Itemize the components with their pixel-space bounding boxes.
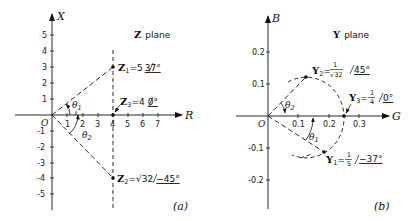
r-tick-label: 7 (155, 120, 160, 129)
y-tick-label: -5 (37, 190, 45, 199)
z-plane-diagram: X R O 1 2 3 4 5 -1 -2 -3 -4 -5 (15, 10, 193, 213)
y-tick-label: 3 (42, 63, 47, 72)
r-tick-label: 6 (140, 120, 145, 129)
theta2-arc (69, 115, 78, 134)
caption-b: (b) (374, 200, 390, 213)
svg-text:5: 5 (347, 160, 351, 168)
y-tick-label: 2 (42, 79, 47, 88)
b-tick-label: 0.1 (252, 80, 265, 89)
theta2-label: θ2 (82, 130, 92, 142)
b-tick-label: -0.1 (248, 144, 264, 153)
svg-text:Y1=: Y1= (325, 154, 345, 167)
y-tick-label: 1 (42, 95, 47, 104)
r-tick-label: 3 (95, 120, 100, 129)
svg-text:1: 1 (370, 89, 374, 97)
svg-text:1: 1 (333, 61, 337, 69)
b-ticks: 0.1 0.2 -0.1 -0.2 (248, 48, 270, 185)
y2-point (304, 75, 308, 79)
svg-text:Y2=: Y2= (311, 65, 331, 78)
svg-text:1: 1 (347, 151, 351, 159)
y-plane-title: Yplane (332, 29, 370, 40)
g-tick-label: 0.2 (323, 120, 336, 129)
b-axis-label: B (271, 12, 280, 25)
y-tick-label: -2 (37, 143, 45, 152)
r-tick-label: 2 (80, 120, 85, 129)
y-ticks-negative: -1 -2 -3 -4 -5 (37, 127, 54, 199)
svg-text:0°: 0° (383, 93, 393, 103)
circle-locus (288, 77, 344, 158)
y-plane-diagram: B G O 0.1 0.2 -0.1 -0.2 0.1 0.2 0.3 (236, 12, 401, 213)
g-tick-label: 0.3 (353, 120, 366, 129)
svg-text:√32: √32 (330, 71, 342, 79)
z3-point (111, 113, 115, 117)
y-tick-label: 5 (42, 31, 47, 40)
y-tick-label: -4 (37, 174, 45, 183)
caption-a: (a) (173, 200, 188, 213)
svg-text:4: 4 (370, 98, 374, 106)
theta2-label: θ2 (285, 100, 295, 112)
z-plane-title: Zplane (134, 29, 171, 40)
g-axis-label: G (392, 110, 401, 123)
svg-text:45°: 45° (354, 65, 370, 75)
g-tick-label: 0.1 (292, 120, 305, 129)
y1-label: Y1= 1 5 −37° (325, 151, 383, 168)
r-axis-label: R (184, 109, 193, 122)
y-tick-label: -1 (37, 127, 45, 136)
svg-text:Y3=: Y3= (348, 92, 368, 105)
r-tick-label: 4 (110, 120, 115, 129)
y-tick-label: -3 (37, 159, 45, 168)
theta1-label: θ1 (309, 132, 319, 144)
b-tick-label: 0.2 (252, 48, 265, 57)
svg-text:−37°: −37° (359, 154, 383, 164)
y3-point (342, 114, 346, 118)
r-tick-label: 1 (65, 120, 70, 129)
y3-label: Y3= 1 4 0° (346, 89, 393, 113)
y-tick-label: 4 (42, 47, 47, 56)
origin-label: O (258, 119, 266, 129)
b-tick-label: -0.2 (248, 176, 264, 185)
z2-label: Z2=√32−45° (117, 173, 180, 186)
z1-point (111, 65, 115, 69)
y2-phasor (268, 77, 306, 116)
x-axis-label: X (56, 10, 66, 23)
z2-point (111, 176, 115, 180)
z1-label: Z1=537° (118, 62, 161, 75)
r-tick-label: 5 (125, 120, 130, 129)
z1-phasor (52, 67, 113, 115)
y2-label: Y2= 1 √32 45° (311, 61, 370, 79)
theta1-label: θ1 (72, 100, 82, 112)
